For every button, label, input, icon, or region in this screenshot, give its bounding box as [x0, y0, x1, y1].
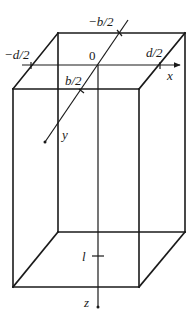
length-label: l [82, 249, 86, 264]
bottom-left-edge [13, 232, 58, 287]
vertical-edges [13, 33, 185, 287]
y-axis-label: y [60, 127, 68, 142]
neg-d-half-label: −d/2 [4, 47, 30, 62]
top-right-edge [139, 33, 185, 89]
y-axis-end-dot [44, 141, 47, 144]
z-axis-label: z [83, 295, 89, 310]
z-axis-end-dot [97, 306, 100, 309]
prism-diagram: −b/2 −d/2 0 d/2 x b/2 y l z [0, 0, 195, 325]
origin-label: 0 [89, 48, 96, 63]
pos-d-half-label: d/2 [146, 45, 163, 60]
bottom-right-edge [139, 232, 185, 287]
top-face [13, 33, 185, 89]
neg-b-half-label: −b/2 [88, 14, 114, 29]
x-axis-label: x [166, 68, 173, 83]
pos-b-half-label: b/2 [65, 73, 82, 88]
bottom-face [13, 232, 185, 287]
